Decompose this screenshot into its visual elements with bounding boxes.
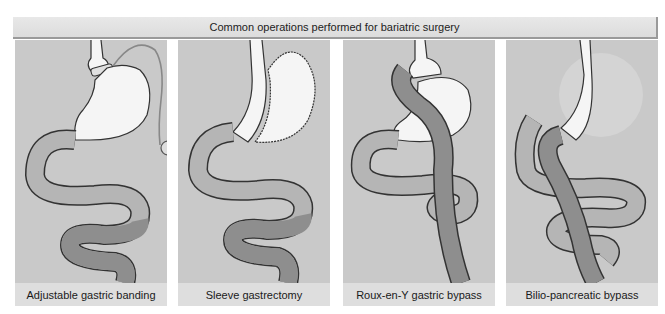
panel-label: Sleeve gastrectomy xyxy=(178,283,330,306)
panel-label: Roux-en-Y gastric bypass xyxy=(343,283,495,306)
roux-en-y-illustration xyxy=(343,40,495,283)
bilio-pancreatic-illustration xyxy=(506,40,658,283)
panel-sleeve-gastrectomy: Sleeve gastrectomy xyxy=(178,40,330,306)
panel-adjustable-gastric-banding: Adjustable gastric banding xyxy=(15,40,167,306)
panel-bilio-pancreatic-bypass: Bilio-pancreatic bypass xyxy=(506,40,658,306)
panel-label: Adjustable gastric banding xyxy=(15,283,167,306)
figure-title: Common operations performed for bariatri… xyxy=(13,17,658,39)
gastric-banding-illustration xyxy=(15,40,167,283)
sleeve-gastrectomy-illustration xyxy=(178,40,330,283)
panel-label: Bilio-pancreatic bypass xyxy=(506,283,658,306)
panel-roux-en-y-gastric-bypass: Roux-en-Y gastric bypass xyxy=(343,40,495,306)
access-port-icon xyxy=(161,141,167,155)
